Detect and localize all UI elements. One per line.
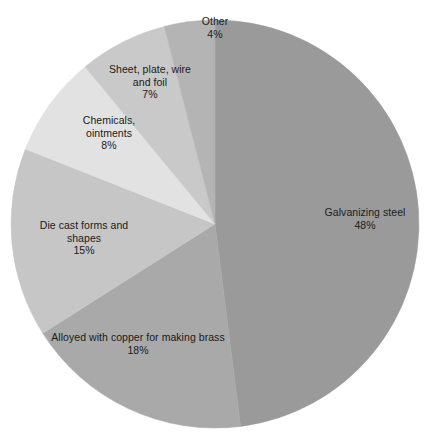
pie-slice-galvanizing-steel[interactable] [215,20,419,426]
pie-slice-group [11,20,419,428]
pie-chart-figure: Galvanizing steel 48% Alloyed with coppe… [0,0,435,444]
pie-chart-canvas [0,0,435,444]
